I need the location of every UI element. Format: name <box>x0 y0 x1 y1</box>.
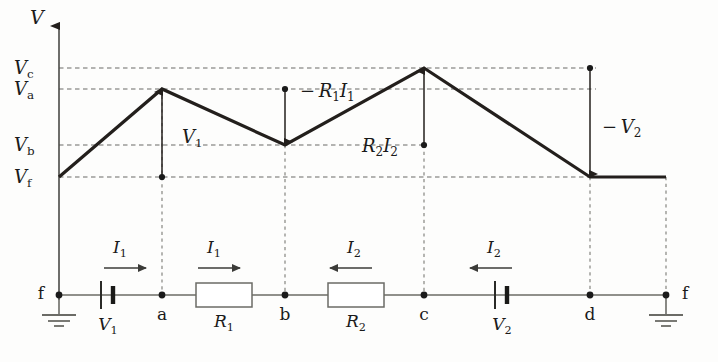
potential-curve <box>59 68 666 177</box>
node-dot-a-162 <box>159 292 166 299</box>
axis-label-Va: Va <box>14 78 34 102</box>
resistor-body <box>196 283 252 307</box>
current-label-I2-R2: I2 <box>346 237 361 260</box>
resistor-R2 <box>328 283 384 307</box>
resistor-label-R2: R2 <box>345 311 366 334</box>
annotation-label-V1: V1 <box>182 126 203 150</box>
resistor-R1 <box>196 283 252 307</box>
current-label-I1-battery: I1 <box>112 237 127 260</box>
axis-label-Vb: Vb <box>14 134 35 158</box>
potential-diagram-svg: VcVaVbVfVV1− R1I1R2I2− V2V1V2R1R2fabcdfI… <box>0 0 718 362</box>
node-label-d-590: d <box>585 304 596 324</box>
axis-title-V: V <box>30 6 46 28</box>
node-label-c-424: c <box>419 304 429 324</box>
figure-canvas: VcVaVbVfVV1− R1I1R2I2− V2V1V2R1R2fabcdfI… <box>0 0 718 362</box>
annotation-arrows <box>159 65 593 180</box>
node-label-f-59: f <box>38 283 46 303</box>
ground-left <box>42 295 76 326</box>
current-label-I1-R1: I1 <box>206 237 221 260</box>
node-label-f-666: f <box>682 283 690 303</box>
node-dot-f-666 <box>663 292 670 299</box>
current-label-I2-battery: I2 <box>486 237 501 260</box>
node-dot-c-424 <box>421 292 428 299</box>
resistor-body <box>328 283 384 307</box>
node-dot-f-59 <box>56 292 63 299</box>
resistor-label-R1: R1 <box>213 311 234 334</box>
level-gridlines <box>59 68 666 177</box>
node-dot-b-285 <box>282 292 289 299</box>
node-label-a-162: a <box>157 304 167 324</box>
annotation-label-minus-V2: − V2 <box>602 116 641 140</box>
annotation-dot-R2I2 <box>421 142 427 148</box>
annotation-label-minus-R1I1: − R1I1 <box>300 80 355 104</box>
ground-right <box>649 295 683 326</box>
annotation-dot-minus-R1I1 <box>282 86 288 92</box>
annotation-dot-minus-V2 <box>587 65 593 71</box>
annotation-label-R2I2: R2I2 <box>361 135 398 159</box>
battery-label-V2: V2 <box>492 314 511 337</box>
node-dot-d-590 <box>587 292 594 299</box>
battery-label-V1: V1 <box>98 314 117 337</box>
annotation-dot-V1 <box>159 174 165 180</box>
potential-curve-path <box>59 68 666 177</box>
axis-label-Vf: Vf <box>14 166 33 190</box>
node-label-b-285: b <box>280 304 291 324</box>
